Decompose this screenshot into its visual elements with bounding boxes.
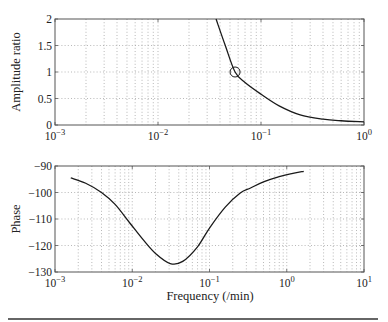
phase-axis-label: Phase xyxy=(9,204,23,234)
x-tick-label: 100 xyxy=(279,274,295,289)
x-tick-label: 10−1 xyxy=(251,127,272,142)
bode-figure: 10−310−210−110000.511.52 10−310−210−1100… xyxy=(0,0,388,322)
y-tick-label: 2 xyxy=(46,13,52,25)
grid-lines xyxy=(55,19,364,125)
x-tick-label: 101 xyxy=(356,274,372,289)
amplitude-ratio-axis-label: Amplitude ratio xyxy=(9,32,23,112)
y-tick-label: −100 xyxy=(28,187,52,199)
y-tick-label: −110 xyxy=(29,213,53,225)
phase-plot: 10−310−210−1100101−130−120−110−100−90 xyxy=(28,160,372,289)
x-tick-label: 10−2 xyxy=(148,127,169,142)
frequency-axis-label: Frequency (/min) xyxy=(166,289,253,303)
y-tick-label: 1.5 xyxy=(38,40,53,52)
grid-lines xyxy=(55,166,364,272)
y-tick-label: 1 xyxy=(46,66,52,78)
x-tick-label: 100 xyxy=(356,127,372,142)
x-tick-label: 10−2 xyxy=(122,274,143,289)
y-tick-label: −120 xyxy=(28,240,52,252)
y-tick-label: 0 xyxy=(46,119,52,131)
y-tick-label: −130 xyxy=(28,266,52,278)
amplitude-ratio-plot: 10−310−210−110000.511.52 xyxy=(38,13,372,142)
data-curve-phase xyxy=(71,171,304,264)
x-tick-label: 10−1 xyxy=(199,274,220,289)
y-tick-label: −90 xyxy=(34,160,52,172)
y-tick-label: 0.5 xyxy=(38,93,53,105)
